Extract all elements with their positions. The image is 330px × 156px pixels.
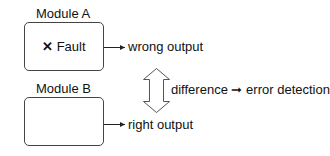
error-detection-label: error detection [246, 82, 330, 97]
arrow-right-icon: ➞ [231, 82, 242, 97]
double-arrow-icon [144, 69, 170, 113]
module-a-title: Module A [36, 6, 90, 21]
module-a-content: ✕ Fault [42, 39, 86, 54]
wrong-output-label: wrong output [128, 39, 203, 54]
comparison-label: difference ➞ error detection [171, 82, 330, 97]
module-b-box [24, 97, 104, 146]
difference-label: difference [171, 82, 228, 97]
x-mark-icon: ✕ [42, 39, 53, 54]
right-output-label: right output [128, 117, 193, 132]
module-b-title: Module B [36, 81, 91, 96]
fault-label: Fault [57, 39, 86, 54]
